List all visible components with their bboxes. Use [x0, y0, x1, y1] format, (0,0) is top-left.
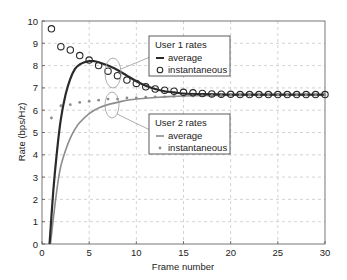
- user2-instantaneous-marker: [144, 96, 147, 99]
- user2-instantaneous-marker: [154, 95, 157, 98]
- x-axis-label: Frame number: [152, 261, 214, 272]
- y-tick-label: 4: [33, 149, 38, 160]
- x-tick-label: 10: [131, 247, 142, 258]
- x-tick-label: 0: [39, 247, 44, 258]
- user2-instantaneous-marker: [229, 94, 232, 97]
- y-tick-label: 7: [33, 82, 38, 93]
- user1-leader-line: [121, 57, 150, 69]
- user2-instantaneous-marker: [324, 94, 327, 97]
- user1-instantaneous-marker: [67, 47, 73, 53]
- legend-user2-title: User 2 rates: [155, 117, 207, 128]
- legend-user1-title: User 1 rates: [155, 39, 207, 50]
- user1-instantaneous-marker: [77, 52, 83, 58]
- user2-instantaneous-marker: [97, 99, 100, 102]
- y-tick-label: 0: [33, 239, 38, 250]
- user2-instantaneous-marker: [50, 117, 53, 120]
- legend-user1-instantaneous-label: instantaneous: [168, 64, 227, 75]
- y-tick-label: 1: [33, 216, 38, 227]
- user2-instantaneous-marker: [135, 97, 138, 100]
- y-tick-label: 2: [33, 194, 38, 205]
- user2-instantaneous-marker: [286, 94, 289, 97]
- user2-instantaneous-marker: [107, 98, 110, 101]
- user2-instantaneous-marker: [126, 97, 129, 100]
- user2-instantaneous-marker: [248, 94, 251, 97]
- user2-instantaneous-marker: [295, 94, 298, 97]
- user2-instantaneous-marker: [267, 94, 270, 97]
- y-axis-label: Rate (bps/Hz): [16, 103, 27, 162]
- y-tick-label: 10: [27, 16, 38, 27]
- legend-user2-average-label: average: [168, 130, 202, 141]
- legend-user2-instantaneous-label: instantaneous: [168, 142, 227, 153]
- legend-user1-average-label: average: [168, 52, 202, 63]
- legend-user1: User 1 rates average instantaneous: [149, 36, 230, 76]
- user2-leader-line: [117, 114, 150, 130]
- user1-instantaneous-marker: [48, 26, 54, 32]
- x-tick-label: 15: [178, 247, 189, 258]
- x-tick-label: 25: [273, 247, 284, 258]
- y-tick-label: 5: [33, 127, 38, 138]
- user2-instantaneous-marker: [314, 94, 317, 97]
- user2-instantaneous-marker: [88, 100, 91, 103]
- user2-instantaneous-marker: [69, 103, 72, 106]
- user2-instantaneous-marker: [239, 94, 242, 97]
- user1-instantaneous-marker: [105, 68, 111, 74]
- user2-instantaneous-marker: [59, 104, 62, 107]
- legend-user2-dot-icon: [159, 147, 162, 150]
- user2-instantaneous-marker: [78, 101, 81, 104]
- user2-instantaneous-marker: [163, 95, 166, 98]
- x-tick-label: 20: [225, 247, 236, 258]
- rate-vs-frame-chart: 051015202530012345678910 User 1 rates av…: [0, 0, 347, 280]
- y-tick-label: 8: [33, 60, 38, 71]
- y-tick-label: 3: [33, 172, 38, 183]
- y-tick-label: 9: [33, 38, 38, 49]
- x-tick-label: 5: [87, 247, 92, 258]
- user1-instantaneous-marker: [114, 72, 120, 78]
- user1-instantaneous-marker: [124, 77, 130, 83]
- x-tick-label: 30: [320, 247, 331, 258]
- user2-instantaneous-marker: [258, 94, 261, 97]
- user2-instantaneous-marker: [173, 95, 176, 98]
- legend-user2: User 2 rates average instantaneous: [149, 114, 230, 154]
- user2-instantaneous-marker: [305, 94, 308, 97]
- user1-instantaneous-marker: [58, 43, 64, 49]
- user2-instantaneous-marker: [220, 94, 223, 97]
- y-tick-label: 6: [33, 105, 38, 116]
- user2-instantaneous-marker: [276, 94, 279, 97]
